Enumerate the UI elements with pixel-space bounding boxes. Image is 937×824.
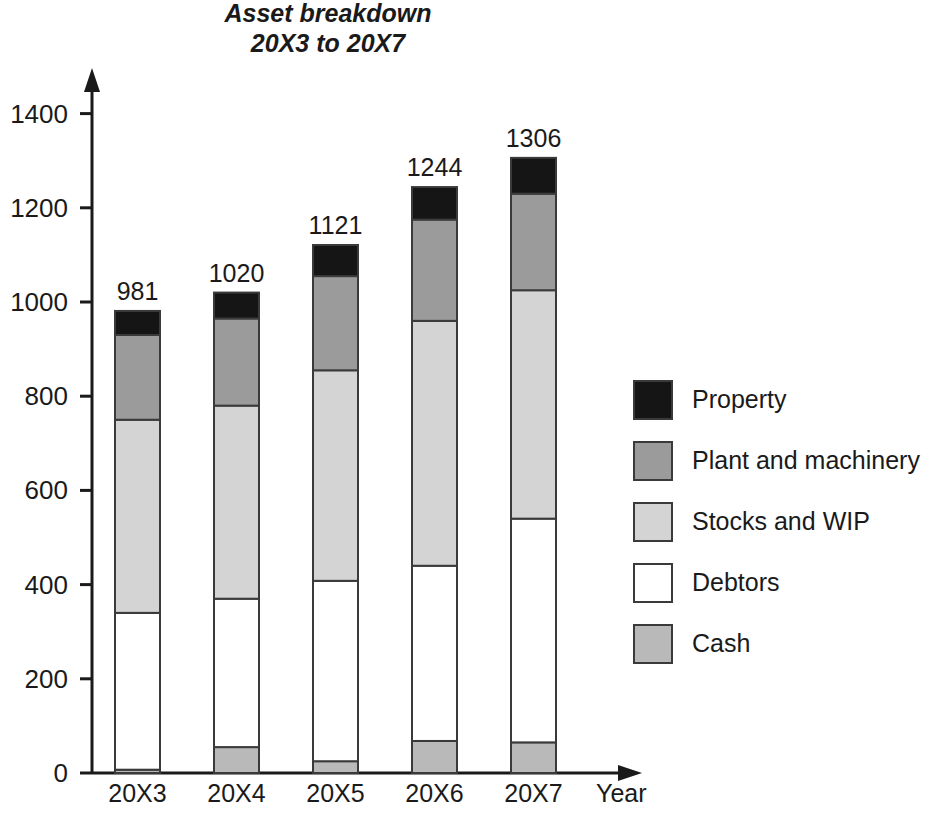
x-tick-label: 20X3 — [108, 779, 166, 807]
y-axis — [84, 68, 100, 773]
y-tick-label: 1200 — [10, 193, 68, 223]
y-tick-label: 600 — [25, 475, 68, 505]
stacked-bar-chart: Asset breakdown 20X3 to 20X7 02004006008… — [0, 0, 937, 824]
bar-group — [115, 311, 160, 773]
bar-segment[interactable] — [313, 276, 358, 370]
legend-item[interactable]: Stocks and WIP — [634, 503, 870, 541]
bar-segment[interactable] — [511, 194, 556, 291]
bar-segment[interactable] — [412, 741, 457, 773]
bar-segment[interactable] — [511, 742, 556, 773]
bar-segment[interactable] — [214, 406, 259, 599]
bar-segment[interactable] — [313, 581, 358, 761]
y-tick-label: 1400 — [10, 99, 68, 129]
y-tick-label: 800 — [25, 381, 68, 411]
legend-label: Debtors — [692, 568, 780, 596]
bar-total-label: 1244 — [407, 153, 463, 181]
bar-segment[interactable] — [511, 158, 556, 194]
legend-swatch — [634, 442, 672, 480]
legend-label: Plant and machinery — [692, 446, 920, 474]
x-tick-label: 20X4 — [207, 779, 265, 807]
bar-segment[interactable] — [214, 293, 259, 319]
bar-segment[interactable] — [115, 420, 160, 613]
x-tick-label: 20X5 — [306, 779, 364, 807]
bar-total-label: 1121 — [309, 211, 363, 239]
bar-total-label: 1306 — [506, 124, 562, 152]
bar-total-label: 1020 — [209, 259, 265, 287]
bar-segment[interactable] — [214, 318, 259, 405]
bar-segment[interactable] — [313, 245, 358, 276]
x-axis-category-labels: 20X320X420X520X620X7 — [108, 779, 562, 807]
x-axis-label: Year — [596, 779, 647, 807]
y-tick-label: 1000 — [10, 287, 68, 317]
bar-group — [511, 158, 556, 773]
legend-swatch — [634, 503, 672, 541]
legend-label: Stocks and WIP — [692, 507, 870, 535]
bar-group — [313, 245, 358, 773]
bar-segment[interactable] — [115, 613, 160, 770]
bar-segment[interactable] — [214, 599, 259, 747]
bar-segment[interactable] — [412, 220, 457, 321]
y-tick-label: 200 — [25, 664, 68, 694]
bar-segment[interactable] — [412, 566, 457, 741]
legend-item[interactable]: Cash — [634, 625, 750, 663]
bar-segment[interactable] — [412, 321, 457, 566]
legend-label: Cash — [692, 629, 750, 657]
y-tick-label: 0 — [54, 758, 68, 788]
bar-segment[interactable] — [313, 370, 358, 581]
bar-segment[interactable] — [115, 335, 160, 420]
bars-layer — [115, 158, 556, 773]
bar-segment[interactable] — [313, 761, 358, 773]
chart-figure: Asset breakdown 20X3 to 20X7 02004006008… — [0, 0, 937, 824]
bar-total-label: 981 — [117, 277, 159, 305]
arrow-up-icon — [84, 68, 100, 92]
legend-item[interactable]: Debtors — [634, 564, 780, 602]
y-axis-ticks: 0200400600800100012001400 — [10, 99, 92, 788]
bar-group — [214, 293, 259, 773]
y-tick-label: 400 — [25, 570, 68, 600]
chart-subtitle: 20X3 to 20X7 — [250, 29, 406, 57]
legend-swatch — [634, 625, 672, 663]
legend-item[interactable]: Property — [634, 381, 787, 419]
bar-segment[interactable] — [412, 187, 457, 219]
bar-segment[interactable] — [214, 747, 259, 773]
legend-label: Property — [692, 385, 787, 413]
bar-segment[interactable] — [511, 519, 556, 743]
bar-segment[interactable] — [511, 290, 556, 518]
chart-title: Asset breakdown — [223, 0, 431, 27]
legend-item[interactable]: Plant and machinery — [634, 442, 920, 480]
x-tick-label: 20X6 — [405, 779, 463, 807]
legend-swatch — [634, 381, 672, 419]
bar-segment[interactable] — [115, 311, 160, 335]
bar-group — [412, 187, 457, 773]
x-tick-label: 20X7 — [504, 779, 562, 807]
legend-swatch — [634, 564, 672, 602]
chart-legend: PropertyPlant and machineryStocks and WI… — [634, 381, 920, 663]
